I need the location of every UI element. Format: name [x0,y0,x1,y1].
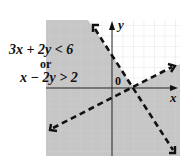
connector-text: or [40,58,51,70]
inequality-1: 3x + 2y < 6 [9,43,73,57]
y-axis-label: y [118,18,124,31]
x-axis-label: x [170,91,177,104]
inequality-2: x − 2y > 2 [20,71,78,85]
origin-label: 0 [115,75,121,87]
